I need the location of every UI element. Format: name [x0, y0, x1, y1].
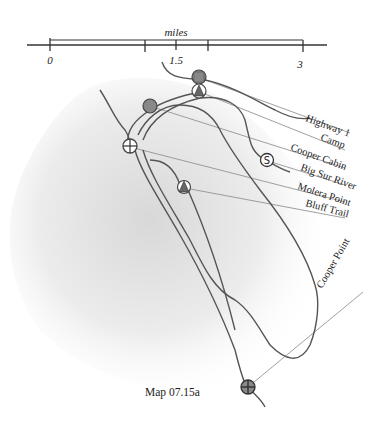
trail-map: miles 0 1.5 3 — [0, 0, 379, 430]
terrain-shading — [10, 78, 322, 392]
camp-marker-upper[interactable] — [192, 70, 206, 84]
trailhead-marker-north[interactable] — [123, 139, 137, 153]
svg-text:S: S — [264, 155, 270, 166]
molera-point-marker-upper[interactable] — [192, 84, 206, 98]
cooper-cabin-marker[interactable]: S — [261, 154, 274, 167]
molera-point-marker[interactable] — [178, 181, 191, 194]
scale-unit-label: miles — [164, 26, 187, 38]
camp-marker-left[interactable] — [143, 99, 157, 113]
scale-tick-mid: 1.5 — [169, 54, 183, 66]
map-caption: Map 07.15a — [145, 386, 200, 399]
scale-tick-max: 3 — [296, 58, 303, 70]
trailhead-marker-south[interactable] — [241, 380, 255, 394]
scale-bar: miles 0 1.5 3 — [27, 26, 327, 70]
scale-tick-0: 0 — [47, 54, 53, 66]
